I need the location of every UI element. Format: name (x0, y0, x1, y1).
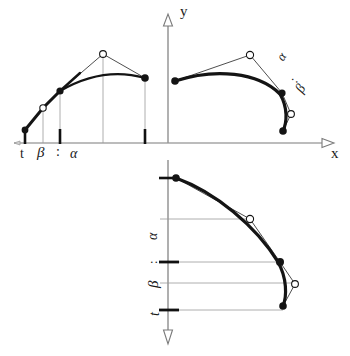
t-axis-downward (164, 160, 173, 344)
bottom-curve-group (172, 174, 298, 310)
x-axis (14, 139, 334, 148)
x-axis-label: x (331, 146, 339, 161)
diagram-svg (0, 0, 350, 356)
right-curve-group (171, 51, 294, 134)
bottom-curve-label-beta: β (146, 281, 161, 288)
x-tick-label-alpha: α (70, 147, 77, 161)
bottom-curve-label-colon: : (146, 260, 159, 264)
x-tick-stems (25, 53, 168, 143)
bottom-curve-label-alpha: α (146, 233, 160, 240)
x-tick-label-beta: β (37, 145, 44, 160)
y-tick-marks (159, 178, 179, 310)
t-axis-label: t (148, 312, 162, 316)
y-tick-leaders (160, 178, 295, 310)
left-curve-group (22, 51, 149, 134)
figure-canvas: y x t t β : α α : β α : β (0, 0, 350, 356)
x-tick-label-colon: : (56, 145, 60, 159)
y-axis-label: y (180, 4, 188, 19)
x-tick-label-t: t (20, 147, 24, 161)
